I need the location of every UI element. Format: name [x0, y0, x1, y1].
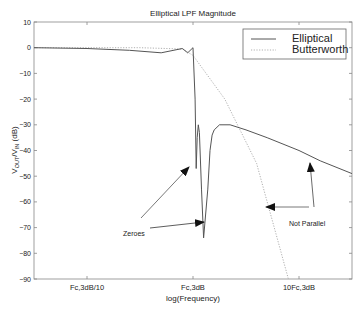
- y-tick-label: −10: [19, 70, 31, 77]
- y-tick-label: −50: [19, 173, 31, 180]
- y-tick-label: −90: [19, 276, 31, 283]
- legend: Elliptical Butterworth: [243, 29, 348, 59]
- y-tick-label: 0: [27, 44, 31, 51]
- y-tick-label: −30: [19, 121, 31, 128]
- legend-label-butterworth: Butterworth: [292, 43, 348, 55]
- x-tick-label: Fc,3dB/10: [70, 283, 104, 292]
- y-tick-label: −20: [19, 96, 31, 103]
- y-tick-label: −70: [19, 224, 31, 231]
- x-tick-label: 10Fc,3dB: [283, 283, 315, 292]
- y-tick-label: −80: [19, 250, 31, 257]
- chart: Elliptical LPF Magnitude 100−10−20−30−40…: [0, 0, 363, 309]
- x-tick-label: Fc,3dB: [181, 283, 205, 292]
- annotation-not-parallel-text: Not Parallel: [289, 220, 326, 227]
- plot-area: [34, 22, 352, 279]
- chart-title: Elliptical LPF Magnitude: [150, 9, 236, 18]
- y-tick-label: 10: [23, 19, 31, 26]
- y-axis-label: VOUT/VIN (dB): [10, 126, 20, 174]
- y-tick-label: −40: [19, 147, 31, 154]
- x-axis-label: log(Frequency): [166, 294, 220, 303]
- y-tick-label: −60: [19, 198, 31, 205]
- annotation-zeroes-text: Zeroes: [123, 230, 145, 237]
